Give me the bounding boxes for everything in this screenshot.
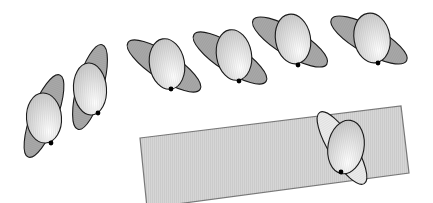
contact-point-dot xyxy=(296,63,301,68)
contact-point-dot xyxy=(376,61,381,66)
contact-point-dot xyxy=(339,170,344,175)
contact-point-dot xyxy=(49,141,54,146)
diagram-svg xyxy=(0,0,433,203)
contact-point-dot xyxy=(96,111,101,116)
contact-point-dot xyxy=(169,87,174,92)
contact-point-dot xyxy=(237,79,242,84)
diagram-canvas xyxy=(0,0,433,203)
